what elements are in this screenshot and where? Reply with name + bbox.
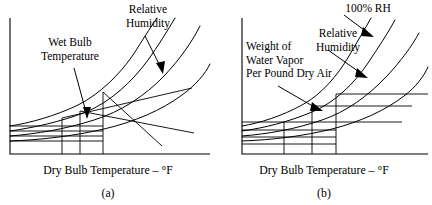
relative-humidity-arrowhead-a [156, 61, 165, 74]
panel-caption-b: (b) [216, 186, 432, 201]
saturation-label-b: 100% RH [328, 2, 408, 16]
rh-curve-a-1 [10, 18, 157, 126]
panel-caption-a: (a) [0, 186, 216, 201]
relative-humidity-label-b-line2: Humidity [300, 41, 376, 55]
wet-bulb-temperature-label: Wet Bulb Temperature [22, 36, 118, 63]
humidity-ratio-label-b-line2: Water Vapor [246, 54, 366, 68]
panel-a: Wet Bulb Temperature Relative Humidity D… [0, 0, 216, 205]
panel-b: Weight of Water Vapor Per Pound Dry Air … [216, 0, 432, 205]
relative-humidity-label-b: Relative Humidity [300, 27, 376, 54]
relative-humidity-label-a: Relative Humidity [108, 3, 188, 30]
psychrometric-figure: Wet Bulb Temperature Relative Humidity D… [0, 0, 432, 205]
rh-curve-a-4 [10, 64, 210, 141]
wet-bulb-line-a-2 [80, 111, 194, 133]
humidity-ratio-leader-b [278, 86, 316, 108]
relative-humidity-label-a-line1: Relative [108, 3, 188, 17]
relative-humidity-label-b-line1: Relative [300, 27, 376, 41]
wet-bulb-temperature-label-line2: Temperature [22, 50, 118, 64]
wet-bulb-line-a-3 [103, 92, 162, 146]
x-axis-title-b: Dry Bulb Temperature – °F [216, 163, 432, 178]
wet-bulb-temperature-label-line1: Wet Bulb [22, 36, 118, 50]
humidity-ratio-arrowhead-b [310, 102, 323, 111]
relative-humidity-label-a-line2: Humidity [108, 17, 188, 31]
x-axis-title-a: Dry Bulb Temperature – °F [0, 163, 216, 178]
wet-bulb-leader-a [74, 68, 86, 112]
humidity-ratio-label-b-line3: Per Pound Dry Air [246, 67, 366, 81]
